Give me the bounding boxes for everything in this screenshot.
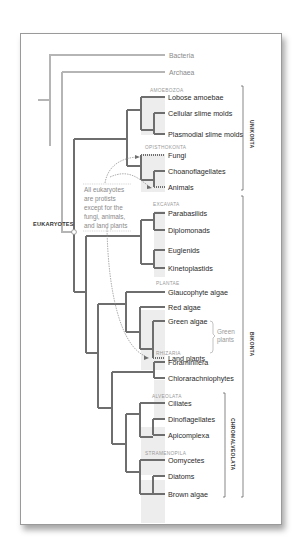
eukaryotes-label: EUKARYOTES [33, 221, 74, 227]
group-label-excavata: EXCAVATA [153, 202, 180, 207]
green-plants-label: Green [217, 328, 235, 335]
taxon-label: Fungi [168, 151, 186, 160]
taxon-label: Green algae [168, 317, 208, 326]
taxon-label: Glaucophyte algae [168, 288, 228, 297]
taxon-label: Foraminifera [168, 358, 208, 367]
annotation-line: except for the [84, 204, 123, 212]
group-label-opisthokonta: OPISTHOKONTA [145, 145, 187, 150]
taxon-label: Euglenids [168, 246, 200, 255]
bikonta-label: BIKONTA [249, 332, 255, 357]
taxon-label: Chlorarachniophytes [168, 374, 234, 383]
protist-annotation: All eukaryotes are protists except for t… [83, 184, 131, 231]
annotation-line: fungi, animals, [84, 213, 125, 221]
taxon-label: Cellular slime molds [168, 109, 233, 118]
annotation-line: and land plants [84, 222, 127, 230]
taxon-archaea: Archaea [169, 69, 195, 76]
eukaryote-node-icon [72, 230, 77, 235]
taxon-label: Animals [168, 183, 194, 192]
taxon-label: Choanoflagellates [168, 167, 226, 176]
taxon-label: Diplomonads [168, 226, 210, 235]
phylogenetic-tree: All eukaryotes are protists except for t… [0, 0, 297, 559]
green-plants-bracket: Green plants [210, 321, 235, 353]
group-label-plantae: PLANTAE [156, 281, 180, 286]
taxon-bacteria: Bacteria [169, 52, 194, 59]
taxon-label: Oomycetes [168, 456, 205, 465]
taxon-label: Brown algae [168, 490, 208, 499]
annotation-line: All eukaryotes [84, 186, 124, 194]
taxon-label: Diatoms [168, 472, 195, 481]
chromalveolata-label: CHROMALVEOLATA [230, 418, 236, 471]
taxon-label: Ciliates [168, 399, 192, 408]
green-plants-label: plants [217, 336, 234, 344]
taxon-label: Dinoflagellates [168, 415, 216, 424]
taxon-label: Plasmodial slime molds [168, 130, 243, 139]
taxon-label: Lobose amoebae [168, 93, 224, 102]
taxon-label: Red algae [168, 303, 201, 312]
annotation-line: are protists [84, 195, 116, 203]
unikonta-label: UNIKONTA [249, 120, 255, 149]
taxon-label: Parabasilids [168, 209, 208, 218]
arrow-icon [135, 155, 140, 159]
taxon-label: Apicomplexa [168, 431, 209, 440]
taxon-label: Kinetoplastids [168, 264, 213, 273]
